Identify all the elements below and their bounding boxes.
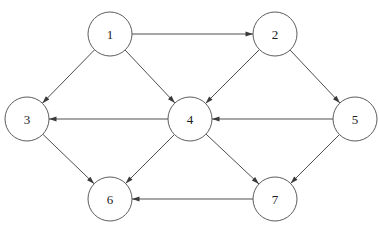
edge-line [206, 134, 259, 184]
node-label: 2 [272, 27, 279, 42]
node-3[interactable]: 3 [5, 97, 49, 141]
node-1[interactable]: 1 [88, 12, 132, 56]
arrowhead-icon [132, 197, 140, 202]
edge-7-to-6 [132, 197, 253, 202]
edge-2-to-5 [290, 50, 340, 103]
edge-4-to-7 [206, 134, 259, 184]
edge-line [206, 50, 260, 104]
node-label: 5 [352, 112, 359, 127]
edge-5-to-4 [212, 117, 333, 122]
edge-5-to-7 [291, 135, 340, 184]
arrowhead-icon [246, 32, 254, 37]
arrowhead-icon [212, 117, 220, 122]
node-5[interactable]: 5 [333, 97, 377, 141]
edge-line [125, 50, 175, 103]
edge-4-to-6 [126, 135, 175, 184]
edge-1-to-4 [125, 50, 175, 103]
nodes-layer: 1234567 [5, 12, 377, 221]
edge-4-to-3 [49, 117, 168, 122]
node-label: 1 [107, 27, 114, 42]
edge-line [43, 134, 94, 183]
node-label: 6 [107, 192, 114, 207]
node-label: 4 [187, 112, 194, 127]
graph-canvas: 1234567 [0, 0, 379, 227]
directed-graph-figure: 1234567 [0, 0, 379, 227]
node-7[interactable]: 7 [253, 177, 297, 221]
edge-2-to-4 [206, 50, 260, 104]
node-6[interactable]: 6 [88, 177, 132, 221]
edge-line [290, 50, 340, 103]
edge-line [291, 135, 340, 184]
edge-3-to-6 [43, 134, 94, 183]
node-2[interactable]: 2 [253, 12, 297, 56]
edge-line [126, 135, 175, 184]
node-label: 3 [24, 112, 31, 127]
arrowhead-icon [49, 117, 57, 122]
node-4[interactable]: 4 [168, 97, 212, 141]
edge-line [42, 50, 94, 104]
edge-1-to-3 [42, 50, 94, 104]
edge-1-to-2 [132, 32, 253, 37]
node-label: 7 [272, 192, 279, 207]
